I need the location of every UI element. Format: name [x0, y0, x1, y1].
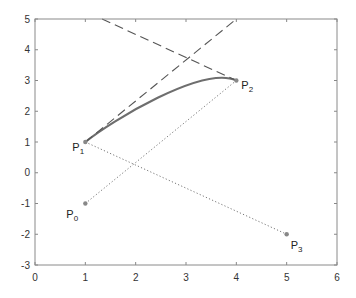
- y-tick-label: 2: [24, 106, 30, 117]
- y-tick-label: -2: [21, 229, 30, 240]
- x-tick-label: 4: [234, 272, 240, 283]
- control-point-marker: [284, 232, 288, 236]
- y-tick-label: 3: [24, 75, 30, 86]
- y-tick-label: 0: [24, 167, 30, 178]
- x-tick-label: 1: [83, 272, 89, 283]
- dashed-tangent-line: [102, 19, 236, 81]
- control-point-label: P2: [241, 79, 253, 94]
- control-point-label: P0: [66, 208, 78, 223]
- control-point-marker: [83, 140, 87, 144]
- dotted-chord-line: [85, 81, 236, 204]
- axis-ticks: [35, 19, 337, 265]
- control-point-marker: [83, 201, 87, 205]
- x-tick-label: 2: [133, 272, 139, 283]
- curve-segment: [85, 78, 236, 142]
- y-tick-label: -3: [21, 260, 30, 271]
- control-points: P0P1P2P3: [66, 78, 303, 254]
- y-tick-label: 1: [24, 137, 30, 148]
- x-tick-label: 0: [32, 272, 38, 283]
- x-tick-label: 6: [334, 272, 340, 283]
- y-tick-label: -1: [21, 198, 30, 209]
- control-point-label: P3: [291, 239, 303, 254]
- dashed-tangent-line: [85, 19, 236, 142]
- x-tick-label: 3: [183, 272, 189, 283]
- y-tick-label: 5: [24, 14, 30, 25]
- x-tick-label: 5: [284, 272, 290, 283]
- y-tick-label: 4: [24, 44, 30, 55]
- dotted-chord-line: [85, 142, 286, 234]
- control-point-label: P1: [72, 141, 84, 156]
- plot-frame: [35, 19, 337, 265]
- x-tick-labels: 0123456: [32, 272, 340, 283]
- plot-lines: [85, 19, 286, 234]
- y-tick-labels: 543210-1-2-3: [21, 14, 30, 271]
- control-point-marker: [234, 78, 238, 82]
- chart: 0123456 543210-1-2-3 P0P1P2P3: [0, 0, 356, 298]
